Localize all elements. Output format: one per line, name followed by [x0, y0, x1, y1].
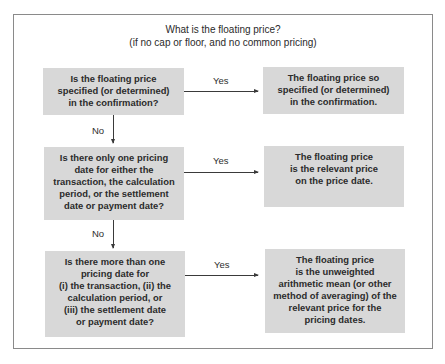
diagram-title: What is the floating price? (if no cap o…: [13, 23, 433, 49]
answer-2-text: The floating price is the relevant price…: [290, 151, 378, 187]
no-label-1: No: [92, 125, 104, 136]
question-box-1: Is the floating price specified (or dete…: [43, 68, 184, 115]
no-label-2: No: [92, 228, 104, 239]
yes-label-2: Yes: [213, 155, 229, 166]
answer-box-1: The floating price so specified (or dete…: [263, 67, 404, 114]
question-box-3: Is there more than one pricing date for …: [45, 251, 185, 337]
question-box-2: Is there only one pricing date for eithe…: [44, 147, 184, 220]
question-2-text: Is there only one pricing date for eithe…: [53, 152, 174, 212]
answer-box-2: The floating price is the relevant price…: [264, 146, 404, 207]
yes-arrow-2: [184, 172, 258, 173]
yes-arrow-3: [185, 275, 258, 276]
no-arrow-1: [113, 115, 114, 143]
yes-label-3: Yes: [214, 259, 230, 270]
yes-label-1: Yes: [213, 75, 229, 86]
question-3-text: Is there more than one pricing date for …: [59, 256, 171, 328]
title-line-1: What is the floating price?: [13, 23, 433, 36]
answer-box-3: The floating price is the unweighted ari…: [265, 249, 405, 333]
question-1-text: Is the floating price specified (or dete…: [57, 73, 169, 109]
title-line-2: (if no cap or floor, and no common prici…: [13, 36, 433, 49]
answer-1-text: The floating price so specified (or dete…: [277, 72, 389, 108]
no-arrow-2: [113, 220, 114, 248]
yes-arrow-1: [184, 91, 258, 92]
answer-3-text: The floating price is the unweighted ari…: [273, 254, 396, 326]
